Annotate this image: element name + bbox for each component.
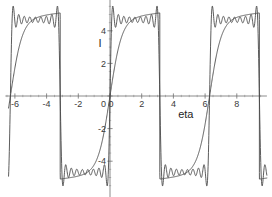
plot-canvas: -6-4-202468 42-2-40 eta I bbox=[0, 0, 272, 197]
x-axis-title: eta bbox=[178, 108, 194, 120]
plot-background bbox=[0, 0, 272, 197]
y-tick-label: 2 bbox=[101, 59, 106, 69]
x-tick-label: 8 bbox=[234, 99, 239, 109]
x-tick-label: -6 bbox=[11, 99, 19, 109]
y-tick-label: -2 bbox=[98, 124, 106, 134]
x-tick-label: 6 bbox=[203, 99, 208, 109]
x-tick-label: 2 bbox=[139, 99, 144, 109]
y-tick-label-zero: 0 bbox=[101, 99, 106, 109]
y-tick-label: 4 bbox=[101, 26, 106, 36]
x-tick-label: 4 bbox=[171, 99, 176, 109]
x-tick-label: -2 bbox=[74, 99, 82, 109]
y-axis-title: I bbox=[98, 37, 101, 49]
x-tick-label: -4 bbox=[43, 99, 51, 109]
plot-figure: -6-4-202468 42-2-40 eta I bbox=[0, 0, 272, 197]
x-tick-label: 0 bbox=[108, 99, 113, 109]
y-tick-label: -4 bbox=[98, 156, 106, 166]
